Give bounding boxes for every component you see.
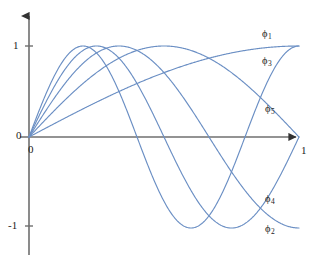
curve-label-phi2-subscript: 2 xyxy=(271,227,275,236)
x-axis-end-label: 1 xyxy=(301,145,307,156)
curve-ϕ₂ xyxy=(29,46,299,137)
curve-label-phi1-subscript: 1 xyxy=(268,32,272,41)
curve-label-phi4: ϕ4 xyxy=(265,194,275,205)
curve-label-phi5: ϕ5 xyxy=(265,104,275,115)
curve-label-phi3-subscript: 3 xyxy=(268,59,272,68)
curve-label-phi2: ϕ2 xyxy=(265,224,275,235)
curve-label-phi4-glyph: ϕ xyxy=(265,193,271,204)
curve-label-phi3-glyph: ϕ xyxy=(262,55,268,66)
curve-label-phi2-glyph: ϕ xyxy=(265,223,271,234)
curve-label-phi1: ϕ1 xyxy=(262,29,272,40)
curve-label-phi5-glyph: ϕ xyxy=(265,103,271,114)
y-axis-origin-label: 0 xyxy=(16,130,22,141)
y-tick-label-one: 1 xyxy=(13,40,19,51)
x-axis-origin-label: 0 xyxy=(28,144,34,155)
axes-group xyxy=(20,16,296,255)
curve-label-phi3: ϕ3 xyxy=(262,56,272,67)
curve-ϕ₁ xyxy=(29,46,299,137)
y-tick-label-negative-one: -1 xyxy=(8,220,17,231)
eigenfunction-plot-figure: 1 -1 0 0 1 ϕ1 ϕ3 ϕ5 ϕ4 ϕ2 xyxy=(0,0,322,263)
curve-label-phi5-subscript: 5 xyxy=(271,107,275,116)
curve-label-phi4-subscript: 4 xyxy=(271,197,275,206)
curve-label-phi1-glyph: ϕ xyxy=(262,28,268,39)
